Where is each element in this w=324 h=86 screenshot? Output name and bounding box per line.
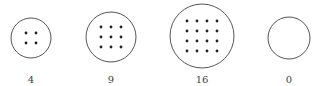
dot (110, 36, 113, 39)
count-label: 4 (28, 74, 34, 85)
dot (216, 40, 219, 43)
dot (196, 50, 199, 53)
dot (25, 42, 28, 45)
dot-group-4 (11, 18, 51, 58)
group-circle (11, 18, 51, 58)
dot (206, 30, 209, 33)
dot (120, 36, 123, 39)
dot (186, 40, 189, 43)
dot (196, 30, 199, 33)
dot (100, 26, 103, 29)
dot-group-0 (268, 17, 310, 59)
dot (206, 50, 209, 53)
dot (186, 50, 189, 53)
dot (196, 40, 199, 43)
dot (186, 20, 189, 23)
dot (206, 40, 209, 43)
group-circle (170, 4, 234, 68)
dot (110, 26, 113, 29)
dot (35, 32, 38, 35)
dot-group-16 (170, 4, 234, 68)
dot (100, 36, 103, 39)
dot (216, 30, 219, 33)
group-circle (268, 17, 310, 59)
dot (35, 42, 38, 45)
dot (216, 50, 219, 53)
dot (120, 26, 123, 29)
dot-group-9 (86, 12, 136, 62)
count-label: 16 (196, 74, 209, 85)
dot (120, 46, 123, 49)
count-label: 0 (286, 74, 292, 85)
dot (25, 32, 28, 35)
dot (206, 20, 209, 23)
dot (196, 20, 199, 23)
count-label: 9 (108, 74, 114, 85)
dot (186, 30, 189, 33)
dot (216, 20, 219, 23)
dot (100, 46, 103, 49)
dot-groups-diagram (0, 0, 324, 86)
dot (110, 46, 113, 49)
